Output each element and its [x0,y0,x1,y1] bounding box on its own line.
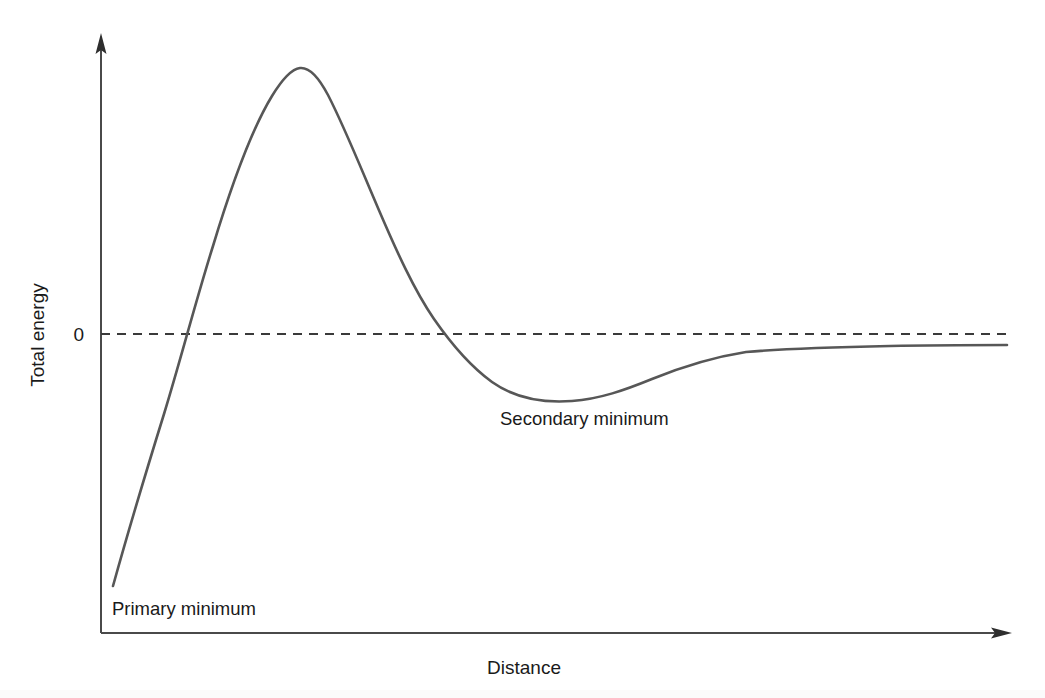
y-axis-zero-tick-label: 0 [73,324,84,345]
dlvo-energy-chart: 0 Total energy Distance Primary minimum … [0,0,1045,698]
x-axis [101,628,1012,639]
y-axis-title: Total energy [27,283,48,387]
primary-minimum-label: Primary minimum [112,598,256,619]
secondary-minimum-label: Secondary minimum [500,408,669,429]
energy-curve-path [113,68,1007,586]
scan-edge-artifact [0,690,1045,698]
x-axis-title: Distance [487,657,561,678]
